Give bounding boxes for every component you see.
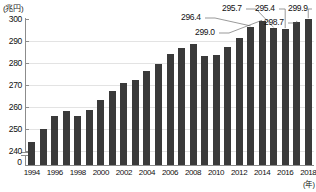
bar-value-annotation: 296.4 — [181, 12, 201, 22]
bar — [86, 110, 93, 165]
bar — [305, 19, 312, 165]
bar — [247, 27, 254, 165]
y-axis-tick-label: 240 — [9, 146, 22, 156]
bar-series — [26, 19, 314, 165]
x-axis-unit-label: (年) — [303, 178, 315, 189]
bar — [293, 22, 300, 165]
bar — [282, 29, 289, 165]
bar — [74, 116, 81, 165]
bar — [97, 100, 104, 165]
bar-value-annotation: 298.7 — [264, 17, 284, 27]
y-axis-unit-label: (兆円) — [3, 2, 24, 13]
bar-value-annotation: 299.9 — [288, 3, 308, 13]
bar — [167, 54, 174, 165]
chart-screenshot: (兆円) 240250260270280290300 0 19941996199… — [0, 0, 316, 192]
y-axis-tick-label: 250 — [9, 124, 22, 134]
bar-value-annotation: 299.0 — [195, 27, 215, 37]
bar — [213, 55, 220, 165]
bar-value-annotation: 295.4 — [255, 3, 275, 13]
bar — [178, 48, 185, 165]
y-axis-zero-label: 0 — [0, 157, 22, 167]
y-axis-tick-label: 260 — [9, 102, 22, 112]
bar — [143, 71, 150, 165]
bar — [224, 47, 231, 166]
bar — [51, 116, 58, 165]
bar — [109, 91, 116, 166]
bar — [28, 142, 35, 165]
bar — [190, 44, 197, 165]
y-axis-tick-label: 300 — [9, 14, 22, 24]
y-axis-tick-label: 280 — [9, 58, 22, 68]
y-axis-tick-label: 270 — [9, 80, 22, 90]
bar — [63, 111, 70, 165]
x-axis-tick-label: 2018 — [295, 168, 316, 177]
bar — [259, 21, 266, 165]
bar — [155, 64, 162, 165]
bar — [236, 38, 243, 165]
bar-value-annotation: 295.7 — [222, 3, 242, 13]
bar — [40, 129, 47, 165]
y-axis-tick-label: 290 — [9, 36, 22, 46]
bar — [120, 83, 127, 165]
bar — [201, 56, 208, 165]
x-axis-line — [25, 165, 314, 166]
leader-line — [308, 9, 312, 18]
bar — [270, 28, 277, 165]
bar — [132, 80, 139, 166]
